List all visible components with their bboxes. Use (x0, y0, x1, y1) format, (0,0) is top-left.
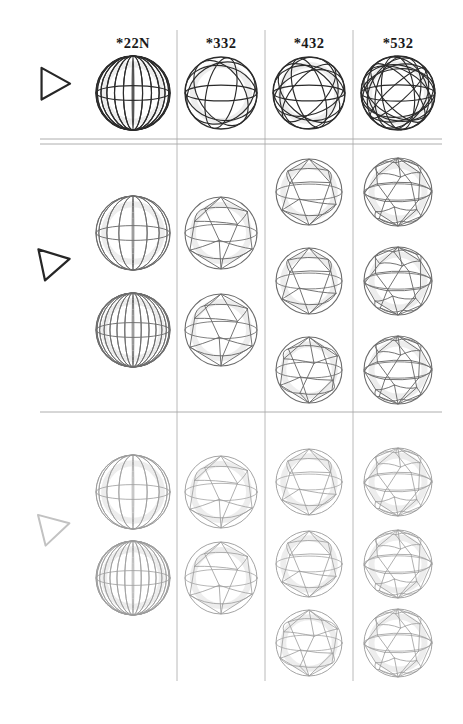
sphere-star-332-row-2 (185, 197, 257, 269)
tiling-edge (379, 173, 401, 177)
tiling-edge (409, 271, 416, 298)
tiling-edge (380, 263, 403, 266)
sphere-star-532-row-2 (364, 158, 432, 226)
great-circle-arc (175, 49, 267, 137)
symmetry-table-figure: *22N*332*432*532 (0, 0, 463, 724)
sphere-star-332-row-1 (175, 49, 267, 137)
sphere-star-432-row-3 (276, 531, 342, 597)
tiling-edge (195, 566, 238, 569)
tiling-edge (195, 197, 221, 221)
tiling-edge (394, 207, 416, 210)
row-marker-row-1 (42, 68, 71, 100)
tiling-edge (290, 182, 330, 183)
sphere-star-432-row-2 (276, 248, 342, 314)
tiling-edge (195, 294, 221, 318)
tiling-edge (219, 240, 221, 269)
great-circle-arc (355, 47, 441, 139)
tiling-edge (300, 571, 310, 597)
sphere-star-532-row-1 (353, 47, 443, 139)
sphere-star-432-row-3 (276, 449, 342, 515)
tiling-edge (195, 221, 238, 224)
tiling-edge (300, 489, 310, 515)
sphere-star-332-row-2 (185, 294, 257, 366)
sphere-star-22N-row-3 (96, 455, 170, 529)
sphere-shading (104, 549, 162, 607)
tiling-edge (393, 296, 416, 299)
tiling-edge (377, 556, 394, 579)
sphere-star-532-row-3 (364, 609, 432, 677)
sphere-shading (104, 301, 162, 359)
row-marker-row-2 (38, 243, 72, 280)
sphere-star-22N-row-2 (96, 293, 170, 367)
sphere-shading (104, 64, 162, 122)
sphere-star-432-row-1 (267, 52, 351, 134)
column-header-star-432: *432 (294, 35, 325, 51)
tiling-edge (195, 318, 238, 321)
tiling-edge (195, 456, 221, 480)
tiling-edge (284, 337, 309, 359)
tiling-edge (377, 184, 394, 207)
tiling-edge (195, 542, 221, 566)
tiling-edge (394, 497, 416, 500)
sphere-star-22N-row-1 (96, 56, 170, 130)
figure-root: *22N*332*432*532 (0, 0, 463, 724)
tiling-edge (284, 610, 309, 632)
sphere-shading (104, 204, 162, 262)
tiling-edge (377, 474, 394, 497)
sphere-shading (193, 205, 249, 261)
sphere-star-332-row-3 (185, 456, 257, 528)
tiling-edge (376, 273, 393, 296)
tiling-edge (290, 271, 330, 272)
sphere-shading (283, 617, 334, 668)
sphere-shading (193, 464, 249, 520)
tiling-edge (394, 385, 416, 388)
tiling-edge (379, 351, 401, 355)
tiling-edge (394, 579, 416, 582)
sphere-star-22N-row-3 (96, 541, 170, 615)
column-header-star-532: *532 (383, 35, 414, 51)
sphere-star-532-row-2 (364, 247, 432, 315)
tiling-edge (195, 480, 238, 483)
tiling-edge (290, 472, 330, 473)
sphere-star-532-row-3 (364, 530, 432, 598)
tiling-edge (377, 362, 394, 385)
tiling-edge (219, 585, 221, 614)
sphere-star-532-row-2 (364, 336, 432, 404)
sphere-shading (193, 65, 249, 121)
sphere-star-22N-row-2 (96, 196, 170, 270)
sphere-shading (104, 463, 162, 521)
tiling-edge (387, 266, 402, 291)
tiling-edge (300, 199, 310, 225)
sphere-star-432-row-2 (276, 337, 342, 403)
sphere-star-432-row-2 (276, 159, 342, 225)
sphere-shading (193, 302, 249, 358)
tiling-edge (300, 288, 310, 314)
tiling-edge (219, 499, 221, 528)
tiling-edge (219, 337, 221, 366)
tiling-edge (394, 658, 416, 661)
sphere-star-532-row-3 (364, 448, 432, 516)
tiling-edge (290, 554, 330, 555)
tiling-edge (377, 635, 394, 658)
row-marker-row-3 (38, 508, 73, 546)
column-header-star-332: *332 (206, 35, 237, 51)
column-header-star-22N: *22N (116, 35, 150, 51)
sphere-star-332-row-3 (185, 542, 257, 614)
sphere-star-432-row-3 (276, 610, 342, 676)
sphere-shading (193, 550, 249, 606)
